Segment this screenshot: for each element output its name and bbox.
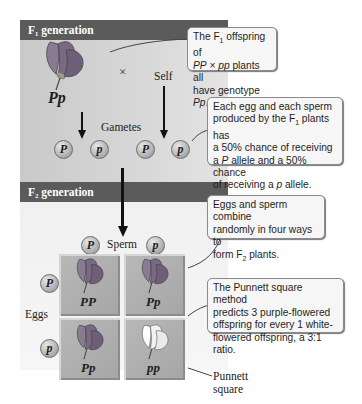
gamete-allele: P <box>136 140 155 159</box>
sperm-allele: P <box>81 236 100 255</box>
purple-flower-icon <box>74 254 108 294</box>
callout-text: predicts 3 purple-flowered <box>213 307 330 318</box>
punnett-label-line: square <box>213 383 248 396</box>
parent-flower-icon <box>42 36 90 90</box>
parent-genotype: Pp <box>48 89 66 107</box>
callout-text: The F <box>193 31 220 42</box>
cell-genotype: Pp <box>146 294 160 310</box>
gamete-allele: p <box>90 140 109 159</box>
cell-genotype: Pp <box>81 360 95 376</box>
callout-text: a <box>213 155 222 166</box>
callout-italic: Pp <box>193 97 205 108</box>
self-label: Self <box>154 70 173 82</box>
main-arrow-shaft <box>121 168 124 228</box>
f2-header: F₂ generation <box>20 182 127 202</box>
callout-combine: Eggs and sperm combine randomly in four … <box>207 195 325 239</box>
arrow-right-shaft <box>163 86 165 132</box>
callout-text: Each egg and each sperm <box>213 101 332 112</box>
callout-text: The Punnett square method <box>213 282 302 305</box>
purple-flower-icon <box>74 320 108 360</box>
eggs-label: Eggs <box>25 308 48 320</box>
arrow-left-shaft <box>81 112 83 132</box>
callout-text: flowered offspring, a 3:1 ratio. <box>213 332 322 355</box>
callout-punnett-ratio: The Punnett square method predicts 3 pur… <box>207 278 344 333</box>
sperm-allele: p <box>146 236 165 255</box>
callout-1-pointer <box>110 36 190 56</box>
callout-text: allele and a 50% chance <box>213 155 306 178</box>
purple-flower-icon <box>139 254 173 294</box>
callout-italic: pp <box>218 60 229 71</box>
sperm-label: Sperm <box>107 238 137 250</box>
callout-text: offspring for every 1 white- <box>213 319 333 330</box>
arrow-right-head <box>160 130 168 139</box>
callout-text: have genotype <box>193 85 260 96</box>
gametes-label: Gametes <box>101 121 141 133</box>
callout-text: allele. <box>282 179 311 190</box>
cross-symbol: × <box>119 64 126 80</box>
callout-text: a 50% chance of receiving <box>213 142 333 153</box>
white-flower-icon <box>139 320 173 360</box>
callout-text: of receiving a <box>213 179 276 190</box>
punnett-label-pointer <box>188 366 214 380</box>
cell-genotype: PP <box>80 294 96 310</box>
gamete-allele: P <box>54 140 73 159</box>
callout-italic: PP <box>193 60 207 71</box>
callout-text: plants. <box>246 249 279 260</box>
callout-text: Eggs and sperm combine <box>213 199 287 222</box>
punnett-label-line: Punnett <box>213 370 248 383</box>
egg-allele: P <box>40 274 59 293</box>
callout-gametes: Each egg and each sperm produced by the … <box>207 97 343 165</box>
egg-allele: p <box>40 339 59 358</box>
callout-text: × <box>207 60 219 71</box>
callout-text: produced by the F <box>213 113 295 124</box>
punnett-square-label: Punnett square <box>213 370 248 396</box>
callout-text: form F <box>213 249 242 260</box>
callout-f1-genotype: The F1 offspring of PP × pp plants all h… <box>187 27 277 71</box>
gamete-allele: p <box>171 140 190 159</box>
arrow-left-head <box>78 130 86 139</box>
main-arrow-head <box>118 226 128 237</box>
cell-genotype: pp <box>147 360 160 376</box>
